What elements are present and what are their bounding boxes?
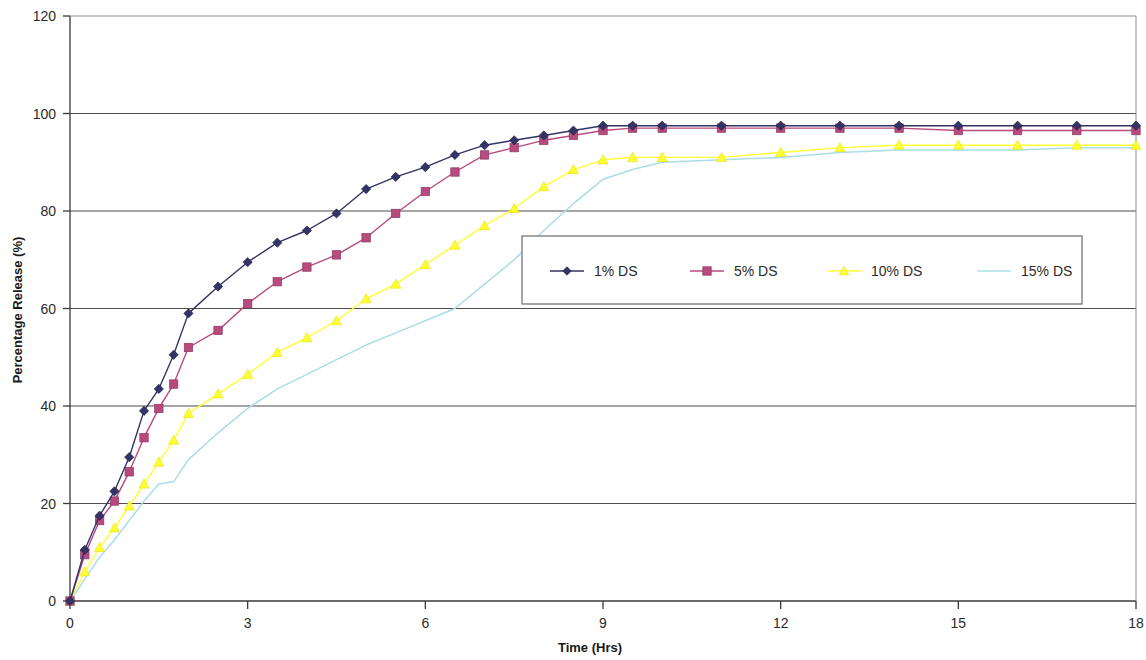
x-axis-ticks: 0369121518	[66, 601, 1144, 631]
legend-marker-1	[703, 267, 711, 275]
data-point-marker	[243, 369, 253, 378]
data-point-marker	[272, 347, 282, 356]
data-point-marker	[154, 384, 163, 393]
data-point-marker	[509, 204, 519, 213]
data-point-marker	[332, 251, 340, 259]
legend-label-2: 10% DS	[871, 263, 922, 279]
data-point-marker	[302, 226, 311, 235]
x-tick-label: 0	[66, 615, 74, 631]
data-point-marker	[169, 380, 177, 388]
series-5ds	[66, 124, 1140, 605]
data-point-marker	[110, 497, 118, 505]
series-1ds	[65, 121, 1140, 606]
y-axis-title: Percentage Release (%)	[10, 237, 25, 384]
series-line	[70, 128, 1136, 601]
data-point-marker	[420, 260, 430, 269]
x-tick-label: 6	[421, 615, 429, 631]
chart-container: 020406080100120 0369121518 1% DS5% DS10%…	[0, 0, 1146, 660]
data-point-marker	[140, 433, 148, 441]
x-tick-label: 18	[1128, 615, 1144, 631]
data-point-marker	[450, 150, 459, 159]
data-point-marker	[169, 435, 179, 444]
y-tick-label: 0	[48, 593, 56, 609]
data-point-marker	[391, 279, 401, 288]
x-tick-label: 15	[951, 615, 967, 631]
gridlines	[70, 114, 1136, 504]
data-point-marker	[480, 151, 488, 159]
data-point-marker	[154, 457, 164, 466]
data-point-marker	[184, 343, 192, 351]
data-point-marker	[213, 389, 223, 398]
data-point-marker	[302, 333, 312, 342]
y-tick-label: 120	[33, 8, 57, 24]
y-tick-label: 80	[40, 203, 56, 219]
data-point-marker	[125, 453, 134, 462]
data-point-marker	[451, 168, 459, 176]
data-point-marker	[139, 406, 148, 415]
legend-label-1: 5% DS	[734, 263, 778, 279]
data-point-marker	[155, 404, 163, 412]
x-tick-label: 12	[773, 615, 789, 631]
x-tick-label: 9	[599, 615, 607, 631]
data-point-marker	[391, 172, 400, 181]
legend-label-0: 1% DS	[594, 263, 638, 279]
data-point-marker	[124, 501, 134, 510]
chart-legend: 1% DS5% DS10% DS15% DS	[522, 236, 1082, 304]
series-line	[70, 126, 1136, 601]
series-line	[70, 148, 1136, 601]
data-point-marker	[392, 209, 400, 217]
data-point-marker	[109, 523, 119, 532]
data-point-marker	[539, 182, 549, 191]
data-point-marker	[125, 468, 133, 476]
data-point-marker	[332, 316, 342, 325]
data-point-marker	[243, 299, 251, 307]
data-point-marker	[214, 326, 222, 334]
data-point-marker	[480, 221, 490, 230]
data-point-marker	[169, 350, 178, 359]
data-point-marker	[361, 294, 371, 303]
legend-label-3: 15% DS	[1021, 263, 1072, 279]
series-10ds	[65, 140, 1141, 605]
data-point-marker	[450, 240, 460, 249]
data-point-marker	[362, 234, 370, 242]
data-series-layer	[65, 121, 1141, 606]
data-point-marker	[273, 238, 282, 247]
x-axis-title: Time (Hrs)	[558, 640, 622, 655]
series-15ds	[70, 148, 1136, 601]
y-tick-label: 60	[40, 301, 56, 317]
x-tick-label: 3	[244, 615, 252, 631]
data-point-marker	[139, 479, 149, 488]
data-point-marker	[303, 263, 311, 271]
data-point-marker	[183, 408, 193, 417]
y-tick-label: 20	[40, 496, 56, 512]
data-point-marker	[80, 567, 90, 576]
line-chart: 020406080100120 0369121518 1% DS5% DS10%…	[0, 0, 1146, 660]
data-point-marker	[480, 141, 489, 150]
data-point-marker	[421, 163, 430, 172]
data-point-marker	[273, 277, 281, 285]
y-tick-label: 40	[40, 398, 56, 414]
y-axis-ticks: 020406080100120	[33, 8, 70, 609]
series-line	[70, 145, 1136, 601]
data-point-marker	[421, 187, 429, 195]
y-tick-label: 100	[33, 106, 57, 122]
